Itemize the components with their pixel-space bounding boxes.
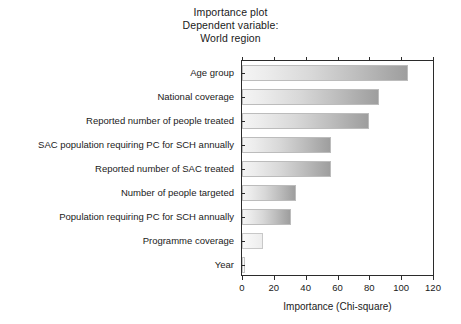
x-axis-tick-mark (369, 276, 370, 280)
y-tick-label-reported-number-of-people-treated: Reported number of people treated (86, 109, 241, 133)
bar-programme-coverage (242, 233, 263, 249)
y-tick-label-age-group: Age group (190, 61, 241, 85)
y-axis-category-labels: Age group National coverage Reported num… (0, 61, 241, 275)
bar-sac-population-requiring-pc-for-sch-annually (242, 137, 331, 153)
x-axis-tick-mark (433, 276, 434, 280)
y-tick-label-sac-population-requiring-pc-for-sch-annually: SAC population requiring PC for SCH annu… (38, 133, 241, 157)
chart-title-line-1: Importance plot (0, 6, 461, 19)
bar-row (242, 253, 433, 277)
bar-age-group (242, 65, 408, 81)
x-tick-label: 60 (323, 282, 353, 293)
y-axis-tick-mark (241, 73, 245, 74)
y-axis-tick-mark (241, 169, 245, 170)
x-axis-tick-mark-top (274, 57, 275, 61)
y-axis-tick-mark (241, 265, 245, 266)
x-axis-tick-mark (242, 276, 243, 280)
bar-row (242, 157, 433, 181)
x-axis-tick-mark-top (306, 57, 307, 61)
y-tick-label-number-of-people-targeted: Number of people targeted (121, 181, 241, 205)
x-axis-tick-mark-top (242, 57, 243, 61)
y-axis-tick-mark (241, 241, 245, 242)
bar-row (242, 61, 433, 85)
x-axis-tick-mark (338, 276, 339, 280)
bar-row (242, 133, 433, 157)
bar-number-of-people-targeted (242, 185, 296, 201)
y-tick-label-year: Year (215, 253, 241, 277)
x-tick-label: 40 (291, 282, 321, 293)
x-axis-tick-mark-top (369, 57, 370, 61)
bar-row (242, 205, 433, 229)
chart-title-line-3: World region (0, 32, 461, 45)
y-tick-label-national-coverage: National coverage (157, 85, 241, 109)
chart-title: Importance plot Dependent variable: Worl… (0, 6, 461, 45)
x-tick-label: 80 (354, 282, 384, 293)
y-axis-tick-mark (241, 97, 245, 98)
x-axis-tick-mark-top (433, 57, 434, 61)
x-tick-label: 0 (227, 282, 257, 293)
x-axis-tick-mark-top (401, 57, 402, 61)
y-axis-tick-mark (241, 217, 245, 218)
y-axis-tick-mark (241, 145, 245, 146)
x-axis-tick-mark (401, 276, 402, 280)
bar-reported-number-of-people-treated (242, 113, 369, 129)
x-axis-tick-mark (274, 276, 275, 280)
y-tick-label-programme-coverage: Programme coverage (143, 229, 241, 253)
bar-population-requiring-pc-for-sch-annually (242, 209, 291, 225)
x-tick-label: 20 (259, 282, 289, 293)
bar-row (242, 229, 433, 253)
importance-bar-chart: Importance plot Dependent variable: Worl… (0, 0, 461, 324)
y-axis-tick-mark (241, 193, 245, 194)
x-tick-label: 120 (418, 282, 448, 293)
x-axis-title: Importance (Chi-square) (241, 301, 434, 312)
y-tick-label-population-requiring-pc-for-sch-annually: Population requiring PC for SCH annually (59, 205, 241, 229)
chart-title-line-2: Dependent variable: (0, 19, 461, 32)
bar-row (242, 181, 433, 205)
bar-national-coverage (242, 89, 379, 105)
x-axis-tick-mark (306, 276, 307, 280)
x-tick-label: 100 (386, 282, 416, 293)
x-axis-tick-mark-top (338, 57, 339, 61)
bars-layer (242, 61, 433, 275)
bar-row (242, 85, 433, 109)
bar-row (242, 109, 433, 133)
bar-reported-number-of-sac-treated (242, 161, 331, 177)
y-tick-label-reported-number-of-sac-treated: Reported number of SAC treated (95, 157, 241, 181)
y-axis-tick-mark (241, 121, 245, 122)
